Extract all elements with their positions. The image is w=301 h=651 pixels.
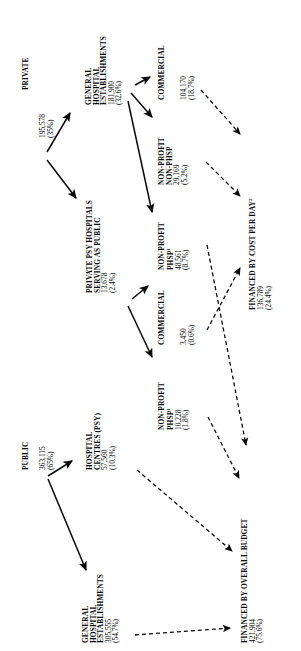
node-private-percent: (35%)	[47, 114, 55, 138]
node-private-label: PRIVATE	[22, 58, 30, 90]
edge-commercial-mid-to-cost-per-day	[207, 268, 240, 330]
edge-general-hospital-to-non-profit-phsp	[128, 101, 152, 212]
node-public-values: 363,115 (65%)	[39, 446, 54, 470]
node-financed-cost-per-day-percent: (24.4%)	[265, 198, 273, 310]
node-public-hospital-centres: HOSPITAL CENTRES (PSY) 57,560 (10.3%)	[86, 413, 116, 470]
node-commercial-mid-percent: (0.6%)	[188, 325, 196, 345]
edge-psy-serving-public-to-commercial-mid	[132, 286, 148, 299]
node-commercial-top-line1: COMMERCIAL	[158, 45, 166, 100]
node-commercial-top-values: 104,170 (18.7%)	[180, 76, 195, 100]
node-private-psy-serving-public: PRIVATE PSY HOSPITALS SERVING AS PUBLIC …	[86, 200, 116, 293]
node-private-general-hospital: GENERAL HOSPITAL ESTABLISHMENTS 181,900 …	[85, 36, 123, 105]
node-financed-overall-budget-percent: (75.6%)	[256, 519, 264, 644]
node-non-profit-non-phsp-percent: (5.2%)	[181, 137, 189, 185]
node-commercial-mid-values: 3,450 (0.6%)	[180, 325, 195, 345]
edge-hospital-centres-to-overall-budget	[137, 470, 232, 551]
node-private-psy-serving-public-percent: (2.4%)	[109, 200, 117, 293]
node-financed-overall-budget: FINANCED BY OVERALL BUDGET 421,904 (75.6…	[241, 519, 264, 644]
node-public: PUBLIC	[22, 441, 30, 470]
edge-commercial-top-to-cost-per-day	[201, 90, 240, 134]
node-commercial-mid-line1: COMMERCIAL	[158, 290, 166, 345]
node-non-profit-non-phsp: NON-PROFIT NON-PHSP 29,169 (5.2%)	[158, 137, 188, 185]
flowchart-canvas: PRIVATE 195,578 (35%) GENERAL HOSPITAL E…	[0, 0, 301, 651]
node-public-percent: (65%)	[47, 446, 55, 470]
node-public-general-hospital: GENERAL HOSPITAL ESTABLISHMENTS 305,555 …	[82, 574, 120, 643]
node-commercial-mid: COMMERCIAL	[158, 290, 166, 345]
node-public-label: PUBLIC	[22, 441, 30, 470]
node-private-values: 195,578 (35%)	[39, 114, 54, 138]
edge-public-to-general-hospital-establishments	[48, 479, 86, 570]
node-financed-cost-per-day: FINANCED BY COST PER DAY2 136,789 (24.4%…	[248, 198, 272, 310]
node-private: PRIVATE	[22, 58, 30, 90]
node-financed-cost-per-day-footnote-marker: 2	[248, 198, 253, 201]
edge-non-profit-non-phsp-to-cost-per-day	[206, 162, 240, 196]
node-public-general-hospital-percent: (54.7%)	[112, 574, 120, 643]
node-public-hospital-centres-percent: (10.3%)	[109, 413, 117, 470]
node-non-profit-phsp-upper: NON-PROFIT PHSP1 48,561 (8.7%)	[158, 222, 190, 270]
edge-non-profit-phsp-lower-to-overall-budget	[208, 417, 239, 478]
node-non-profit-phsp-lower: NON-PROFIT PHSP1 10,228 (1.8%)	[158, 382, 190, 430]
edge-general-hospital-to-commercial	[135, 77, 150, 85]
node-non-profit-phsp-lower-percent: (1.8%)	[182, 382, 190, 430]
edge-general-hospital-establishments-to-overall-budget	[135, 628, 230, 635]
node-non-profit-phsp-upper-line1: NON-PROFIT	[158, 222, 166, 270]
node-non-profit-phsp-lower-line1: NON-PROFIT	[158, 382, 166, 430]
node-non-profit-phsp-upper-footnote-marker: 1	[166, 248, 171, 251]
node-non-profit-phsp-upper-percent: (8.7%)	[182, 222, 190, 270]
edge-private-to-psy-serving-public	[47, 160, 76, 198]
node-commercial-top-percent: (18.7%)	[188, 76, 196, 100]
edge-psy-serving-public-to-non-profit-phsp-lower	[128, 306, 152, 357]
edge-general-hospital-to-non-profit-non-phsp	[131, 93, 152, 117]
node-non-profit-phsp-lower-footnote-marker: 1	[166, 408, 171, 411]
node-private-general-hospital-percent: (32.6%)	[115, 36, 123, 105]
node-commercial-top: COMMERCIAL	[158, 45, 166, 100]
edge-non-profit-phsp-upper-to-overall-budget	[207, 245, 246, 445]
